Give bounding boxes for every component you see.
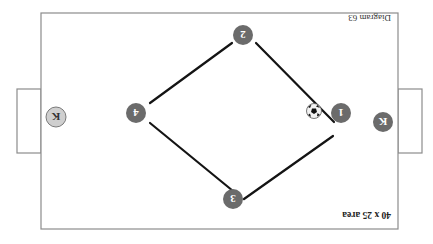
- player-4-label: 4: [133, 107, 139, 119]
- player-1-label: 1: [338, 107, 344, 119]
- goal-right: [17, 89, 41, 153]
- soccer-ball-icon[interactable]: [307, 104, 322, 119]
- area-label: 40 x 25 area: [342, 210, 391, 220]
- goal-left: [398, 89, 422, 153]
- keeper-dark-label: K: [378, 116, 387, 128]
- player-2[interactable]: 2: [233, 25, 253, 45]
- keeper-dark[interactable]: K: [373, 112, 393, 132]
- player-1[interactable]: 1: [331, 103, 351, 123]
- keeper-light[interactable]: K: [46, 107, 66, 127]
- diagram-title: Diagram 63: [348, 13, 391, 23]
- player-3-label: 3: [230, 193, 236, 205]
- diagram-canvas: 1 2 3 4 K K: [0, 0, 433, 244]
- player-2-label: 2: [240, 29, 246, 41]
- player-3[interactable]: 3: [223, 189, 243, 209]
- player-4[interactable]: 4: [126, 103, 146, 123]
- keeper-light-label: K: [51, 111, 60, 123]
